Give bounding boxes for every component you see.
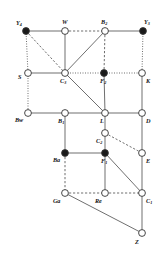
graph-node-re[interactable]: [102, 190, 109, 197]
graph-edge: [104, 73, 105, 113]
graph-node-bw[interactable]: [25, 110, 32, 117]
graph-edge: [26, 31, 28, 73]
graph-edge: [65, 73, 105, 113]
graph-edge: [26, 31, 65, 73]
graph-node-s[interactable]: [25, 70, 32, 77]
graph-edge: [65, 193, 142, 233]
lattice-diagram-figure: Y4WB2Y3SC3F2KBwB1LDC2BaF1EGaReC1Z: [0, 0, 160, 259]
graph-edge: [142, 31, 143, 73]
graph-node-f1[interactable]: [102, 150, 109, 157]
graph-edge: [104, 31, 105, 73]
graph-node-f2[interactable]: [101, 70, 108, 77]
graph-node-c2[interactable]: [102, 130, 109, 137]
graph-node-e[interactable]: [139, 150, 146, 157]
graph-edge: [105, 153, 142, 193]
graph-node-c1[interactable]: [139, 190, 146, 197]
edge-layer: [26, 31, 143, 233]
graph-node-y4[interactable]: [23, 28, 30, 35]
graph-node-b2[interactable]: [102, 28, 109, 35]
graph-node-ga[interactable]: [62, 190, 69, 197]
graph-node-y3[interactable]: [140, 28, 147, 35]
graph-node-ba[interactable]: [62, 150, 69, 157]
graph-node-z[interactable]: [139, 230, 146, 237]
graph-node-c3[interactable]: [62, 70, 69, 77]
graph-edge: [65, 31, 105, 73]
graph-node-b1[interactable]: [62, 110, 69, 117]
graph-edge: [105, 133, 142, 153]
graph-canvas: [0, 0, 160, 259]
graph-node-d[interactable]: [139, 110, 146, 117]
graph-node-l[interactable]: [102, 110, 109, 117]
graph-node-k[interactable]: [139, 70, 146, 77]
graph-node-w[interactable]: [62, 28, 69, 35]
node-layer: [23, 28, 147, 237]
